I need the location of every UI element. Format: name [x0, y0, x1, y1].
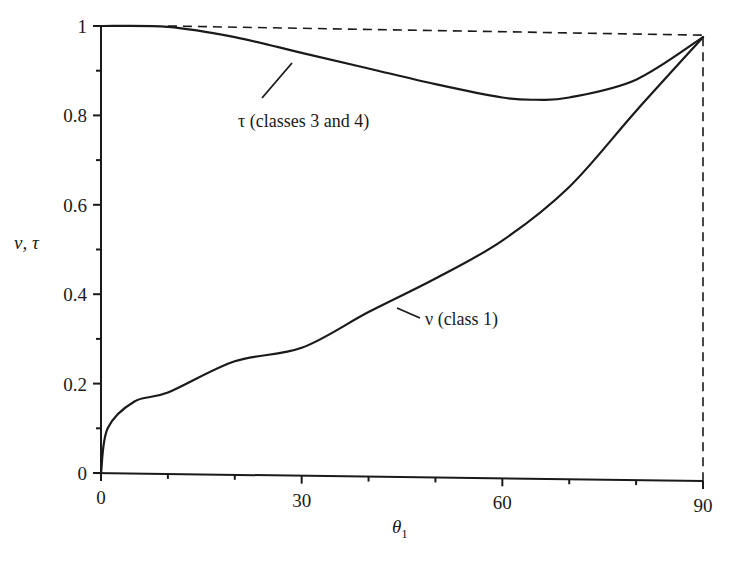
- x-axis-label: θ1: [392, 516, 408, 541]
- x-tick-label: 0: [96, 487, 106, 508]
- x-axis-label-subscript: 1: [401, 526, 408, 541]
- y-tick-label: 0.6: [63, 195, 87, 216]
- chart: 00.20.40.60.810306090 τ (classes 3 and 4…: [0, 0, 734, 561]
- y-tick-label: 0.4: [63, 284, 87, 305]
- y-tick-label: 0: [78, 463, 88, 484]
- tau-annotation: τ (classes 3 and 4): [238, 111, 369, 132]
- tau-annotation-leader: [262, 63, 292, 98]
- x-axis-line: [93, 473, 703, 481]
- x-tick-label: 60: [493, 492, 512, 513]
- axes: [93, 25, 703, 481]
- curves: [101, 26, 703, 473]
- nu-annotation: ν (class 1): [425, 309, 498, 330]
- y-tick-label: 1: [78, 16, 88, 37]
- dashed-line-top: [168, 26, 703, 35]
- y-tick-label: 0.8: [63, 105, 87, 126]
- ticks: 00.20.40.60.810306090: [63, 16, 712, 516]
- reference-lines: [168, 26, 703, 481]
- nu-curve: [101, 37, 703, 473]
- x-tick-label: 90: [694, 495, 713, 516]
- y-axis-label: ν, τ: [14, 232, 40, 253]
- x-tick-label: 30: [292, 490, 311, 511]
- nu-annotation-leader: [397, 308, 420, 318]
- x-axis-label-main: θ: [392, 516, 401, 537]
- y-tick-label: 0.2: [63, 374, 87, 395]
- annotations: τ (classes 3 and 4) ν (class 1): [238, 63, 498, 330]
- tau-curve: [101, 26, 703, 100]
